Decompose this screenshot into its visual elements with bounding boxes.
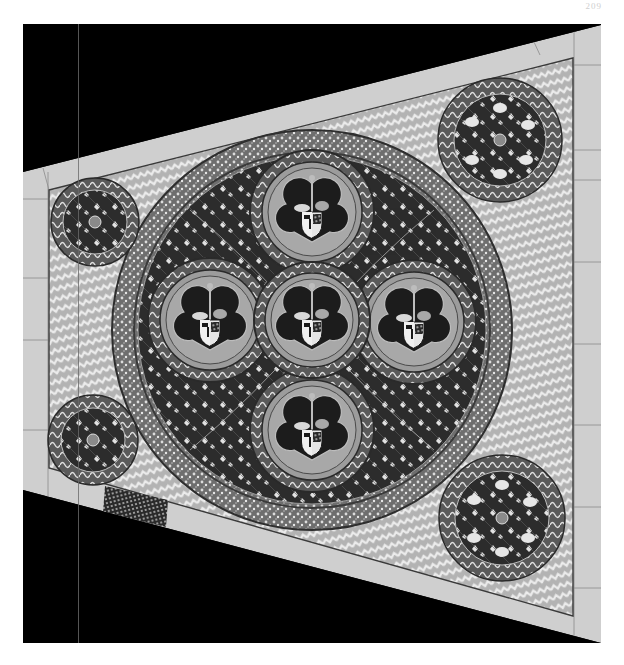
heraldic-medallion-bottom [250,368,374,492]
corner-medallion-top-left [51,178,139,266]
heraldic-medallion-center [254,262,370,378]
heraldic-medallion-top [250,150,374,274]
binding-line [78,24,79,643]
corner-medallion-bottom-left [48,395,138,485]
corner-medallion-bottom-right [439,455,565,581]
mosaic-plate [0,0,624,665]
corner-medallion-top-right [438,78,562,202]
